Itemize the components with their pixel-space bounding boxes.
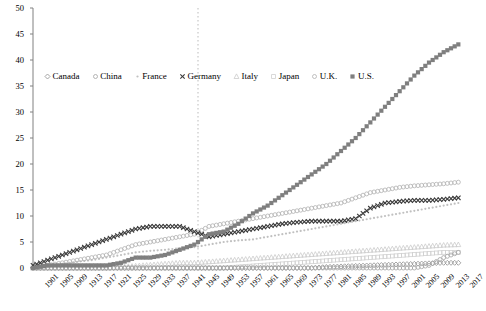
y-tick-label: 40: [4, 55, 24, 65]
y-tick-label: 25: [4, 133, 24, 143]
y-tick-label: 45: [4, 29, 24, 39]
y-tick-label: 20: [4, 159, 24, 169]
series-layer: [31, 42, 461, 270]
y-tick-label: 15: [4, 185, 24, 195]
y-tick-label: 35: [4, 81, 24, 91]
axis-lines: [30, 8, 33, 268]
series-us: [31, 42, 461, 270]
y-tick-label: 50: [4, 3, 24, 13]
y-tick-label: 5: [4, 237, 24, 247]
y-tick-label: 10: [4, 211, 24, 221]
y-tick-label: 0: [4, 263, 24, 273]
x-tick-label: 2017: [468, 272, 486, 290]
y-tick-label: 30: [4, 107, 24, 117]
